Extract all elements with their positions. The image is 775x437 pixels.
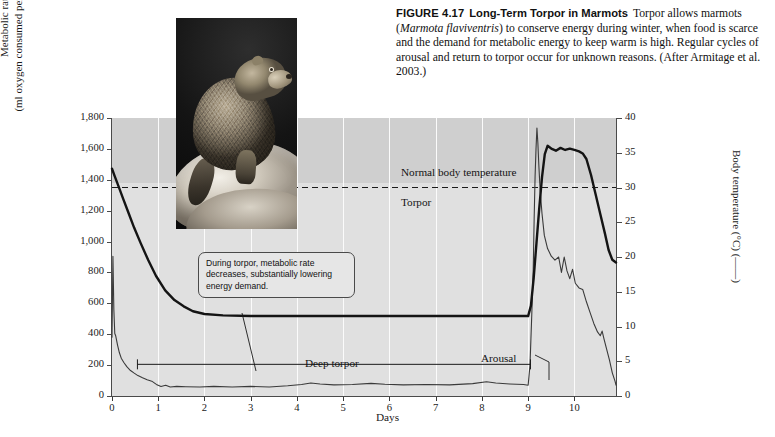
figure-title: Long-Term Torpor in Marmots: [469, 7, 628, 19]
y-tick-left-400: 400: [30, 327, 104, 338]
y-tick-left-0: 0: [30, 389, 104, 400]
annotation-normal-body-temperature: Normal body temperature: [401, 166, 517, 178]
tick-right-0: [617, 396, 622, 397]
tick-right-40: [617, 118, 622, 119]
y-tick-left-1400: 1,400: [30, 173, 104, 184]
x-tickmark-7: [436, 397, 437, 401]
tick-right-5: [617, 361, 622, 362]
marmot-photo: [176, 18, 297, 229]
y-tick-right-10: 10: [625, 320, 636, 331]
x-tickmark-0: [112, 397, 113, 401]
y-tick-right-0: 0: [625, 389, 630, 400]
species-name: Marmota flaviventris: [400, 22, 499, 35]
y-tick-right-25: 25: [625, 215, 636, 226]
y-axis-left-label-line1: Metabolic rate: [0, 0, 10, 57]
y-axis-left-label-line2: (ml oxygen consumed per hour) (——): [11, 0, 25, 150]
figure-caption: FIGURE 4.17Long-Term Torpor in MarmotsTo…: [396, 6, 768, 80]
x-tickmark-2: [204, 397, 205, 401]
annotation-deep-torpor: Deep torpor: [305, 357, 359, 369]
y-tick-right-40: 40: [625, 111, 636, 122]
axis-line-bottom: [111, 396, 617, 397]
y-tick-right-5: 5: [625, 354, 630, 365]
tick-right-30: [617, 188, 622, 189]
x-tickmark-8: [482, 397, 483, 401]
marmot-nose: [286, 74, 292, 79]
tick-right-20: [617, 257, 622, 258]
leader-line-arousal: [535, 355, 549, 380]
y-tick-right-20: 20: [625, 250, 636, 261]
x-axis-label: Days: [0, 411, 775, 423]
y-axis-left-label: Metabolic rate (ml oxygen consumed per h…: [0, 0, 25, 150]
y-tick-right-30: 30: [625, 181, 636, 192]
annotation-torpor: Torpor: [401, 196, 431, 208]
y-tick-right-35: 35: [625, 146, 636, 157]
y-tick-left-1200: 1,200: [30, 204, 104, 215]
annotation-arousal: Arousal: [481, 352, 516, 364]
y-tick-left-1800: 1,800: [30, 111, 104, 122]
x-tickmark-3: [251, 397, 252, 401]
figure-number: FIGURE 4.17: [396, 7, 464, 19]
y-tick-left-200: 200: [30, 358, 104, 369]
callout-box: During torpor, metabolic rate decreases,…: [198, 252, 355, 298]
y-tick-left-1000: 1,000: [30, 235, 104, 246]
y-axis-right-label: Body temperature (°C) (——): [730, 150, 744, 283]
tick-right-15: [617, 292, 622, 293]
x-tickmark-5: [343, 397, 344, 401]
marmot-leg: [235, 149, 257, 184]
marmot-eye: [269, 67, 274, 72]
y-tick-left-800: 800: [30, 265, 104, 276]
x-tickmark-1: [158, 397, 159, 401]
y-tick-left-1600: 1,600: [30, 142, 104, 153]
tick-right-25: [617, 222, 622, 223]
x-tickmark-6: [389, 397, 390, 401]
x-tickmark-4: [297, 397, 298, 401]
tick-right-35: [617, 153, 622, 154]
x-tickmark-9: [528, 397, 529, 401]
tick-right-10: [617, 327, 622, 328]
y-tick-left-600: 600: [30, 296, 104, 307]
y-tick-right-15: 15: [625, 285, 636, 296]
leader-line-callout: [242, 313, 256, 371]
x-tickmark-10: [574, 397, 575, 401]
